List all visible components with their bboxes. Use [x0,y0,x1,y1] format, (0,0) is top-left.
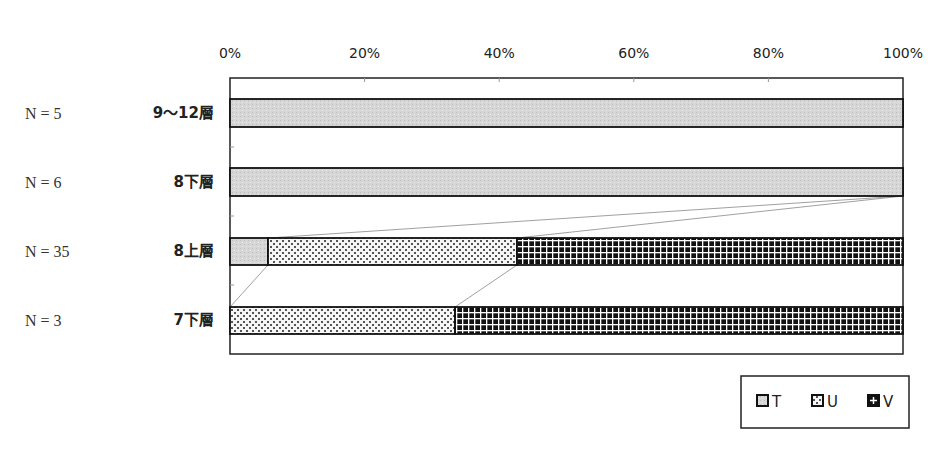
bar-row-7-lower [230,307,903,334]
legend-label-U: U [827,393,838,411]
x-tick-40: 40% [484,45,515,61]
bar-row-8-upper [230,238,903,265]
category-labels: N = 5 9〜12層 N = 6 8下層 N = 35 8上層 N = 3 7… [25,104,214,329]
category-label: 7下層 [174,311,214,329]
x-tick-60: 60% [618,45,649,61]
bar-segment-T [230,168,903,196]
bar-segment-U [268,238,517,265]
category-label: 8下層 [174,173,214,191]
sample-size-label: N = 35 [25,243,70,260]
bar-segment-T [230,99,903,127]
bar-row-9-12 [230,99,903,127]
bar-segment-T [230,238,268,265]
legend-label-V: V [883,393,894,411]
category-label: 8上層 [174,242,214,260]
stacked-bar-chart: 0% 20% 40% 60% 80% 100% N = 5 9〜12層 N = … [0,0,947,451]
category-label: 9〜12層 [153,104,214,122]
x-axis-tick-labels: 0% 20% 40% 60% 80% 100% [219,45,923,61]
sample-size-label: N = 6 [25,174,62,191]
sample-size-label: N = 3 [25,312,62,329]
legend-swatch-U-icon [812,395,823,406]
x-tick-80: 80% [753,45,784,61]
bar-segment-V [455,307,903,334]
x-tick-100: 100% [883,45,923,61]
bar-row-8-lower [230,168,903,196]
legend-label-T: T [771,393,782,411]
x-tick-0: 0% [219,45,241,61]
sample-size-label: N = 5 [25,105,62,122]
bar-segment-V [517,238,903,265]
bar-segment-U [230,307,455,334]
x-tick-20: 20% [349,45,380,61]
legend-swatch-T-icon [757,395,768,406]
legend: T U V [741,376,909,428]
